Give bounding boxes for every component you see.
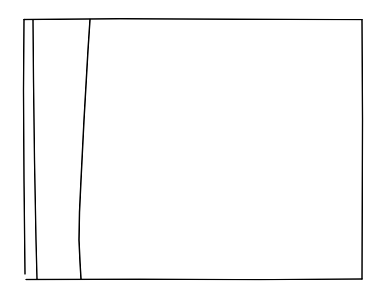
line-drawing-svg [0,0,376,290]
frame-top-edge [24,19,362,20]
main-blank-panel [90,20,361,278]
middle-strip [34,20,89,278]
left-narrow-strip [25,20,33,278]
scanned-drawing-canvas [0,0,376,290]
frame-bottom-edge [26,279,362,280]
frame-right-edge [362,20,363,279]
